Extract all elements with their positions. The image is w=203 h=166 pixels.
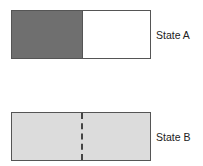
state-b-dashed-divider (81, 113, 83, 160)
state-a-box (11, 10, 151, 59)
state-b-label: State B (156, 131, 190, 143)
state-b-box (11, 112, 151, 161)
state-a-dark-half (12, 11, 83, 58)
state-a-label: State A (156, 29, 190, 41)
